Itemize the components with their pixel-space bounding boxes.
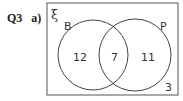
region-outside: 3: [165, 81, 172, 94]
set-p-label: P: [160, 20, 167, 33]
region-intersection: 7: [111, 51, 118, 64]
region-p-only: 11: [141, 51, 155, 64]
universal-symbol: ξ: [51, 7, 58, 22]
venn-diagram: ξ B P 12 7 11 3: [0, 0, 183, 101]
region-b-only: 12: [73, 51, 87, 64]
set-b-label: B: [64, 20, 72, 33]
universal-set-box: [47, 3, 178, 95]
